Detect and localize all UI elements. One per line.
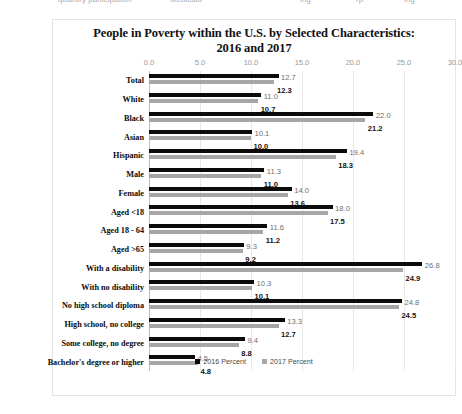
category-label: High school, no college [64,320,144,329]
bar-2017: 11.0 [149,174,261,178]
bar-value-label: 14.0 [294,186,309,195]
cut-text-fragment-4: rp [356,0,363,4]
bar-2017: 8.8 [149,343,239,347]
category-label: Female [119,188,144,197]
bar-value-label: 9.4 [247,336,258,345]
bar-2016: 9.4 [149,337,245,341]
category-label: Hispanic [113,151,144,160]
category-label: Aged >65 [111,245,144,254]
bar-2017: 17.5 [149,211,328,215]
bar-value-label: 9.3 [246,242,257,251]
chart-legend: 2016 Percent2017 Percent [53,357,455,366]
x-tick-label-2: 10.0 [244,58,259,67]
bar-value-label: 19.4 [349,148,364,157]
bar-2017: 24.9 [149,268,403,272]
category-label: White [123,95,144,104]
legend-swatch-icon [195,359,200,364]
category-label: With no disability [81,282,144,291]
chart-title: People in Poverty within the U.S. by Sel… [53,26,455,55]
bar-row: Some college, no degree9.48.8 [149,334,455,353]
category-label: No high school diploma [62,301,144,310]
bar-value-label: 22.0 [376,111,391,120]
bar-row: Aged 18 - 6411.611.2 [149,221,455,240]
bar-2017: 12.3 [149,80,274,84]
cut-text-fragment-3: ing [300,0,311,4]
bar-2017: 18.3 [149,155,336,159]
bar-2017: 10.7 [149,99,258,103]
bar-2016: 18.0 [149,205,333,209]
bar-2016: 12.7 [149,74,279,78]
category-label: Some college, no degree [61,338,144,347]
bar-row: With a disability26.824.9 [149,259,455,278]
bar-2016: 10.3 [149,280,254,284]
page-top-cut-text: quantify participation Medicaid ing rp i… [0,0,460,13]
bar-row: Female14.013.6 [149,184,455,203]
bar-2017: 21.2 [149,118,365,122]
bar-2016: 9.3 [149,243,244,247]
bar-2017: 10.1 [149,286,252,290]
bar-value-label: 10.3 [257,279,272,288]
bar-row: Black22.021.2 [149,109,455,128]
gridline-6 [455,71,456,371]
bar-row: High school, no college13.312.7 [149,315,455,334]
bar-value-label: 4.8 [200,367,211,376]
bar-2017: 10.0 [149,136,251,140]
bar-rows: Total12.712.3White11.010.7Black22.021.2A… [149,71,455,371]
legend-item-2017[interactable]: 2017 Percent [262,357,313,366]
bar-value-label: 26.8 [425,261,440,270]
bar-row: White11.010.7 [149,90,455,109]
bar-2016: 26.8 [149,262,422,266]
category-label: Male [126,170,144,179]
bar-row: Male11.311.0 [149,165,455,184]
x-tick-label-4: 20.0 [346,58,361,67]
bar-row: Hispanic19.418.3 [149,146,455,165]
bar-2016: 10.1 [149,130,252,134]
bar-2016: 11.6 [149,224,267,228]
chart-container: People in Poverty within the U.S. by Sel… [52,19,456,396]
bar-value-label: 13.3 [287,317,302,326]
bar-2017: 24.5 [149,305,399,309]
bar-2017: 9.2 [149,249,243,253]
bar-2016: 24.8 [149,299,402,303]
bar-value-label: 18.0 [335,204,350,213]
bar-value-label: 12.7 [281,73,296,82]
bar-value-label: 11.3 [267,167,281,176]
bar-2016: 13.3 [149,318,285,322]
plot-area: Total12.712.3White11.010.7Black22.021.2A… [149,71,455,371]
chart-title-line-2: 2016 and 2017 [53,41,455,56]
cut-text-fragment-5: ing [404,0,415,4]
x-tick-label-5: 25.0 [397,58,412,67]
x-axis-tick-labels: 0.05.010.015.020.025.030.0 [149,58,455,70]
bar-row: Aged <1818.017.5 [149,202,455,221]
bar-value-label: 11.0 [264,92,278,101]
legend-swatch-icon [262,359,267,364]
category-label: Aged 18 - 64 [101,226,144,235]
bar-row: Total12.712.3 [149,71,455,90]
bar-2017: 11.2 [149,230,263,234]
legend-item-2016[interactable]: 2016 Percent [195,357,246,366]
chart-title-line-1: People in Poverty within the U.S. by Sel… [53,26,455,41]
bar-2016: 19.4 [149,149,347,153]
bar-row: With no disability10.310.1 [149,277,455,296]
x-tick-label-1: 5.0 [195,58,205,67]
category-label: Total [126,76,144,85]
bar-row: Aged >659.39.2 [149,240,455,259]
category-label: Aged <18 [111,207,144,216]
bar-row: Asian10.110.0 [149,127,455,146]
x-tick-label-3: 15.0 [295,58,310,67]
bar-2017: 12.7 [149,324,279,328]
category-label: With a disability [86,263,144,272]
bar-2016: 22.0 [149,112,373,116]
bar-2016: 11.0 [149,93,261,97]
bar-2016: 14.0 [149,187,292,191]
cut-text-fragment-1: quantify participation [58,0,131,4]
bar-value-label: 24.8 [404,298,419,307]
x-tick-label-0: 0.0 [144,58,154,67]
bar-2016: 11.3 [149,168,264,172]
cut-text-fragment-2: Medicaid [170,0,202,4]
category-label: Asian [124,132,144,141]
category-label: Black [124,113,144,122]
x-tick-label-6: 30.0 [448,58,462,67]
legend-label: 2017 Percent [270,357,313,366]
bar-value-label: 10.1 [255,129,270,138]
